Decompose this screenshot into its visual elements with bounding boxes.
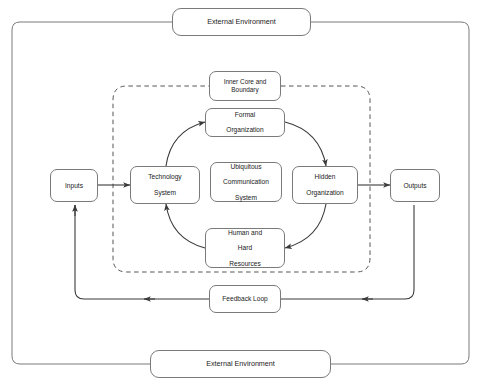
node-ubiquitous-communication-system: Ubiquitous Communication System [210,162,282,202]
human-resources-line2: Hard [226,244,264,252]
node-hidden-organization: Hidden Organization [292,166,358,204]
node-formal-organization: Formal Organization [205,108,285,137]
ucs-line3: System [221,194,271,202]
technology-system-line2: System [146,189,183,197]
inner-core-boundary-label: Formal Inner Core and Boundary [209,71,281,101]
node-outputs: Outputs [390,169,440,202]
human-resources-line1: Human and [226,229,264,237]
human-resources-line3: Resources [226,260,264,268]
formal-organization-line2: Organization [224,126,265,134]
hidden-organization-line1: Hidden [304,173,345,181]
inner-core-line1: Inner Core and Boundary [212,78,278,93]
ucs-line1: Ubiquitous [221,163,271,171]
systems-diagram: External Environment External Environmen… [0,0,481,379]
node-feedback-loop: Feedback Loop [209,285,281,313]
ucs-line2: Communication [221,178,271,186]
technology-system-line1: Technology [146,173,183,181]
node-human-hard-resources: Human and Hard Resources [205,228,285,268]
external-environment-top: External Environment [172,8,311,36]
node-technology-system: Technology System [130,166,200,204]
external-environment-bottom: External Environment [150,350,331,378]
formal-organization-line1: Formal [224,111,265,119]
node-inputs: Inputs [50,169,98,202]
hidden-organization-line2: Organization [304,189,345,197]
